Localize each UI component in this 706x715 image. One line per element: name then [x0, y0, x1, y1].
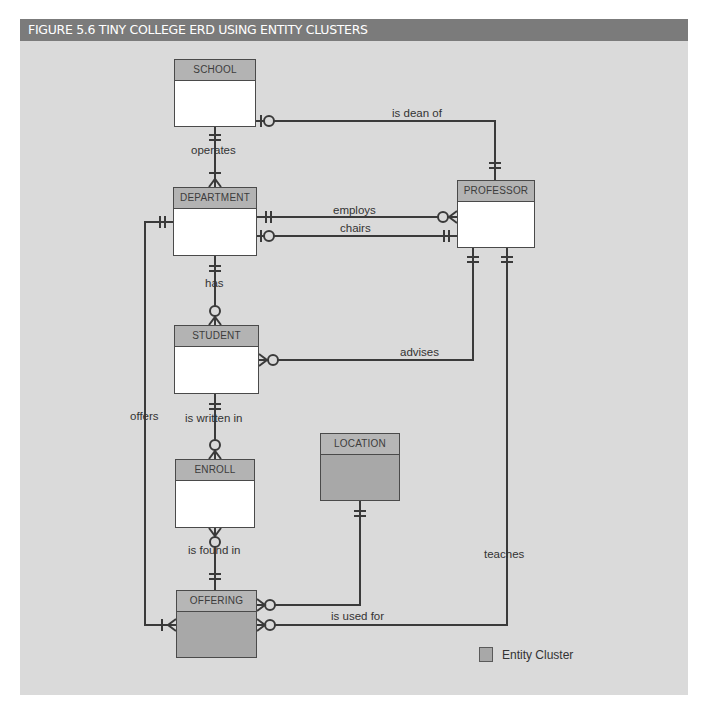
rel-offers-line — [145, 216, 176, 631]
entity-department-name: DEPARTMENT — [174, 188, 256, 209]
rel-is-found-in-line — [209, 528, 221, 590]
label-chairs: chairs — [340, 222, 371, 235]
entity-enroll[interactable]: ENROLL — [175, 459, 255, 528]
entity-school[interactable]: SCHOOL — [174, 59, 256, 127]
label-advises: advises — [400, 346, 439, 359]
entity-department[interactable]: DEPARTMENT — [173, 187, 257, 256]
entity-cluster-swatch — [479, 647, 493, 662]
label-is-written-in: is written in — [185, 412, 243, 425]
label-is-dean-of: is dean of — [392, 107, 442, 120]
entity-professor-name: PROFESSOR — [458, 181, 534, 202]
label-is-used-for: is used for — [331, 610, 384, 623]
rel-is-dean-of-line — [256, 115, 501, 180]
legend: Entity Cluster — [479, 647, 573, 662]
entity-student[interactable]: STUDENT — [174, 325, 259, 394]
rel-has-line — [209, 256, 221, 325]
label-teaches: teaches — [484, 548, 524, 561]
label-is-found-in: is found in — [188, 544, 240, 557]
rel-operates-line — [209, 127, 221, 187]
label-has: has — [205, 277, 224, 290]
entity-enroll-name: ENROLL — [176, 460, 254, 481]
entity-offering-name: OFFERING — [177, 591, 256, 612]
entity-cluster-location[interactable]: LOCATION — [320, 433, 400, 501]
label-offers: offers — [130, 410, 159, 423]
entity-student-name: STUDENT — [175, 326, 258, 347]
entity-cluster-offering[interactable]: OFFERING — [176, 590, 257, 658]
entity-location-name: LOCATION — [321, 434, 399, 455]
entity-school-name: SCHOOL — [175, 60, 255, 81]
rel-is-used-for-line — [257, 501, 366, 611]
label-operates: operates — [191, 144, 236, 157]
label-employs: employs — [333, 204, 376, 217]
rel-is-written-in-line — [209, 394, 221, 459]
relationship-lines — [0, 0, 706, 715]
rel-advises-line — [259, 248, 479, 366]
legend-entity-cluster-label: Entity Cluster — [502, 648, 573, 662]
entity-professor[interactable]: PROFESSOR — [457, 180, 535, 248]
